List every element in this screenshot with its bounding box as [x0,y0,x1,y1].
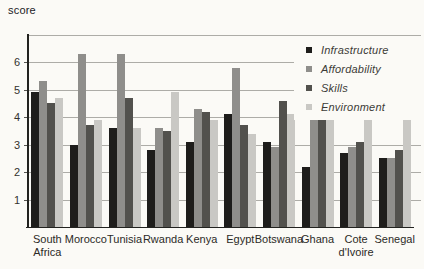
legend-marker-icon [306,85,312,91]
bar-environment-cote-d-ivoire [364,117,372,227]
bar-affordability-botswana [271,147,279,227]
legend-marker-icon [306,66,312,72]
legend: InfrastructureAffordabilitySkillsEnviron… [294,36,424,120]
y-tick-label: 2 [2,165,20,179]
legend-item-environment: Environment [306,97,418,116]
bar-skills-botswana [279,101,287,228]
legend-label: Infrastructure [321,44,389,56]
bar-skills-rwanda [163,131,171,227]
y-tick-label: 5 [2,83,20,97]
bar-infrastructure-morocco [70,145,78,228]
legend-item-affordability: Affordability [306,59,418,78]
y-tick-label: 6 [2,55,20,69]
bar-affordability-rwanda [155,128,163,227]
bar-environment-ghana [326,114,334,227]
bar-skills-ghana [318,112,326,228]
bar-environment-morocco [94,120,102,227]
legend-label: Environment [321,101,385,113]
bar-skills-egypt [240,125,248,227]
bar-infrastructure-ghana [302,167,310,228]
y-tick-label: 3 [2,138,20,152]
bar-affordability-cote-d-ivoire [348,147,356,227]
legend-item-infrastructure: Infrastructure [306,40,418,59]
bar-infrastructure-cote-d-ivoire [340,153,348,227]
bar-environment-kenya [210,120,218,227]
bar-affordability-ghana [310,112,318,228]
bar-affordability-morocco [78,54,86,227]
bar-chart: score 123456SouthAfricaMoroccoTunisiaRwa… [0,0,424,269]
y-tick-label: 1 [2,193,20,207]
bar-infrastructure-tunisia [109,128,117,227]
bar-skills-morocco [86,125,94,227]
bar-environment-botswana [287,114,295,227]
bar-infrastructure-senegal [379,158,387,227]
legend-item-skills: Skills [306,78,418,97]
bar-infrastructure-kenya [186,142,194,227]
bar-skills-cote-d-ivoire [356,142,364,227]
bar-affordability-tunisia [117,54,125,227]
bar-environment-south-africa [55,98,63,227]
bar-infrastructure-rwanda [147,150,155,227]
legend-label: Affordability [321,63,381,75]
legend-marker-icon [306,47,312,53]
bar-affordability-senegal [387,158,395,227]
bar-skills-south-africa [47,103,55,227]
legend-marker-icon [306,104,312,110]
x-category-label: Senegal [369,233,421,246]
bar-infrastructure-egypt [224,114,232,227]
y-axis-title: score [8,4,36,16]
bar-skills-kenya [202,112,210,228]
bar-environment-rwanda [171,92,179,227]
legend-label: Skills [321,82,348,94]
bar-affordability-kenya [194,109,202,227]
bar-skills-tunisia [125,98,133,227]
y-axis-line [27,34,29,228]
bar-affordability-egypt [232,68,240,228]
bar-infrastructure-south-africa [31,92,39,227]
bar-skills-senegal [395,150,403,227]
y-tick-label: 4 [2,110,20,124]
bar-infrastructure-botswana [263,142,271,227]
bar-environment-senegal [403,120,411,227]
bar-environment-egypt [248,134,256,228]
bar-environment-tunisia [133,128,141,227]
bar-affordability-south-africa [39,81,47,227]
